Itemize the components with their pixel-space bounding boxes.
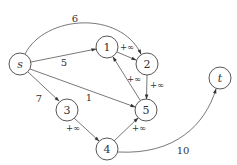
edge-label-s-1: 5 (61, 57, 67, 68)
node-label-1: 1 (104, 41, 111, 54)
edge-label-5-1: +∞ (127, 74, 141, 84)
node-label-2: 2 (144, 58, 151, 71)
node-4: 4 (96, 138, 118, 160)
edge-label-3-4: +∞ (66, 123, 80, 133)
edge-s-to-3 (28, 72, 59, 101)
node-3: 3 (56, 99, 78, 121)
node-label-4: 4 (104, 143, 111, 156)
node-label-3: 3 (64, 104, 71, 117)
edge-label-2-5: +∞ (150, 80, 164, 90)
edge-2-to-5 (147, 75, 148, 99)
edge-label-s-3: 7 (36, 93, 42, 104)
edge-1-to-2 (117, 52, 136, 60)
edge-label-4-t: 10 (177, 145, 190, 156)
node-label-s: s (17, 58, 23, 71)
edge-label-s-2: 6 (72, 13, 78, 24)
flow-network-diagram: 6 5 1 7 +∞ +∞ +∞ +∞ +∞ 10 s 1 2 3 4 5 t (0, 0, 237, 165)
edge-label-1-2: +∞ (120, 42, 134, 52)
node-5: 5 (135, 99, 157, 121)
edge-label-4-5: +∞ (132, 123, 146, 133)
edge-label-s-5: 1 (86, 92, 92, 103)
node-label-5: 5 (143, 104, 150, 117)
node-2: 2 (136, 53, 158, 75)
edge-s-to-5 (30, 69, 135, 107)
edge-4-to-t (118, 89, 216, 152)
node-s: s (9, 53, 31, 75)
node-label-t: t (218, 72, 223, 85)
node-1: 1 (96, 36, 118, 58)
node-t: t (209, 67, 231, 89)
